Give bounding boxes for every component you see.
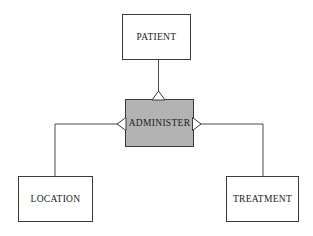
arrowhead-left-icon bbox=[117, 118, 126, 131]
relationship-administer[interactable]: ADMINISTER bbox=[126, 100, 194, 147]
connector-administer-treatment bbox=[193, 124, 263, 176]
diagram-canvas: PATIENT LOCATION TREATMENT ADMINISTER bbox=[0, 0, 313, 236]
relationship-administer-label: ADMINISTER bbox=[129, 118, 191, 128]
arrowhead-up-icon bbox=[152, 91, 165, 100]
entity-location-label: LOCATION bbox=[31, 194, 81, 204]
entity-location[interactable]: LOCATION bbox=[19, 177, 93, 222]
arrowhead-right-icon bbox=[193, 118, 202, 131]
connector-administer-location bbox=[55, 124, 125, 176]
entity-treatment-label: TREATMENT bbox=[233, 194, 292, 204]
entity-patient[interactable]: PATIENT bbox=[123, 15, 191, 60]
entity-patient-label: PATIENT bbox=[137, 32, 177, 42]
entity-treatment[interactable]: TREATMENT bbox=[227, 177, 299, 222]
er-diagram: PATIENT LOCATION TREATMENT ADMINISTER bbox=[0, 0, 313, 236]
